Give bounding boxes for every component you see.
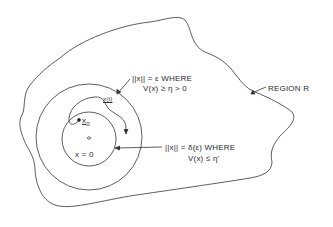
origin-label: x = 0 bbox=[75, 150, 94, 159]
outer-circle-label-line2: V(x) ≥ η > 0 bbox=[143, 84, 187, 93]
region-leader bbox=[252, 87, 266, 93]
outer-circle-label-line1: ||x|| = ε WHERE bbox=[132, 74, 192, 83]
inner-circle-label-line2: V(x) ≤ η' bbox=[188, 154, 219, 163]
trajectory-arrowhead bbox=[124, 129, 128, 134]
subscript-zero: 0 bbox=[86, 121, 90, 127]
outer-circle-leader bbox=[118, 79, 130, 93]
lyapunov-diagram: ||x|| = ε WHERE V(x) ≥ η > 0 x(t) x0 x =… bbox=[0, 0, 333, 227]
origin-marker bbox=[87, 137, 90, 139]
diagram-canvas bbox=[0, 0, 333, 227]
region-r-boundary bbox=[20, 17, 294, 206]
region-r-label: REGION R bbox=[268, 84, 309, 93]
norm-eq-text: ||x|| = bbox=[132, 74, 155, 83]
inner-circle-leader bbox=[116, 147, 162, 148]
trajectory-label: x(t) bbox=[103, 95, 112, 104]
inner-leader-arrowhead bbox=[115, 146, 120, 150]
initial-point-label: x0 bbox=[82, 116, 90, 129]
inner-circle-label-line1: ||x|| = δ(ε) WHERE bbox=[165, 143, 235, 152]
where-text: WHERE bbox=[159, 74, 192, 83]
